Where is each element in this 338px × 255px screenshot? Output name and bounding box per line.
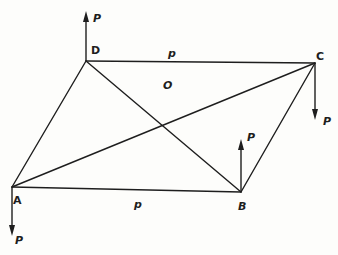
vertex-label-c: C [316,50,324,63]
arrowhead-up-icon [83,11,89,22]
edge-label-dc: p [167,47,176,60]
edge-bc [241,63,315,192]
vertex-label-a: A [13,194,22,207]
edge-ab [12,187,241,192]
vertex-label-b: B [238,200,246,213]
parallelogram-force-diagram: D C A B O p p P P P P [0,0,338,255]
edge-label-ab: p [133,198,142,211]
force-arrow-c-down [312,63,318,120]
edge-da [12,61,86,187]
edge-cd [86,61,315,63]
arrowhead-up-icon [238,139,244,150]
force-label-c: P [323,115,331,128]
force-arrow-d-up [83,11,89,61]
center-label-o: O [163,79,172,92]
force-label-b: P [247,131,255,144]
force-label-a: P [15,234,23,247]
force-label-d: P [93,12,101,25]
force-arrow-b-up [238,139,244,192]
vertex-label-d: D [91,44,100,57]
arrowhead-down-icon [312,109,318,120]
